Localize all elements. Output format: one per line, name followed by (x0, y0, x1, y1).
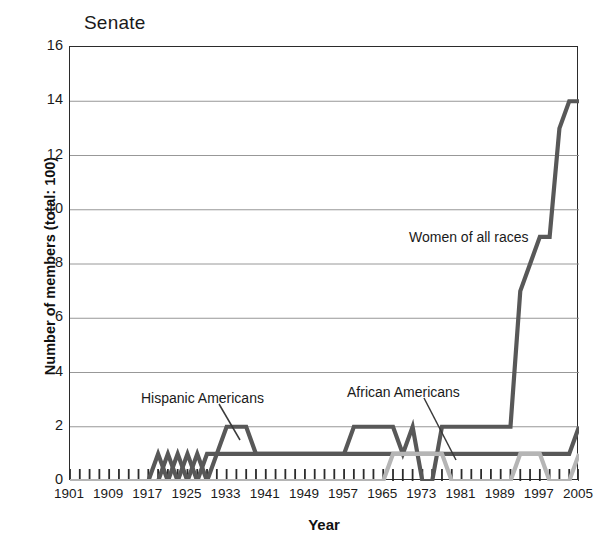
y-tick-label: 10 (21, 200, 63, 216)
y-tick-label: 6 (21, 308, 63, 324)
chart-title: Senate (84, 12, 145, 34)
series-lines (70, 101, 579, 481)
y-tick-label: 8 (21, 254, 63, 270)
series-line-0 (70, 101, 579, 481)
series-annotation: Hispanic Americans (141, 390, 264, 406)
x-tick-label: 2005 (552, 486, 600, 501)
series-annotation: African Americans (347, 384, 460, 400)
plot-area (69, 46, 578, 480)
y-tick-label: 4 (21, 363, 63, 379)
y-tick-label: 12 (21, 146, 63, 162)
y-tick-label: 16 (21, 37, 63, 53)
series-annotation: Women of all races (409, 229, 529, 245)
y-tick-label: 0 (21, 471, 63, 487)
x-axis-title: Year (69, 516, 579, 533)
plot-canvas (70, 47, 579, 481)
y-tick-label: 2 (21, 417, 63, 433)
y-tick-label: 14 (21, 91, 63, 107)
gridlines (70, 101, 579, 427)
chart-figure: Senate Number of members (total: 100) Ye… (0, 0, 600, 552)
